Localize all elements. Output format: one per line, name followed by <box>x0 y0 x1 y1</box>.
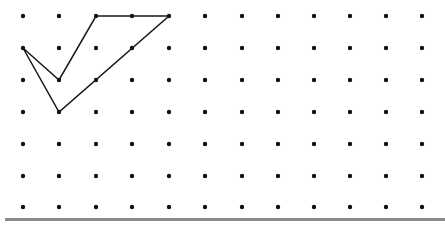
grid-dot <box>203 110 207 114</box>
grid-dot <box>21 78 25 82</box>
grid-dot <box>312 46 316 50</box>
grid-dot <box>240 110 244 114</box>
grid-dot <box>348 46 352 50</box>
dot-grid-figure <box>0 0 445 226</box>
grid-dot <box>130 110 134 114</box>
grid-dot <box>21 174 25 178</box>
grid-dot <box>384 110 388 114</box>
grid-dot <box>276 78 280 82</box>
grid-dot <box>420 78 424 82</box>
grid-dot <box>240 46 244 50</box>
grid-dot <box>203 14 207 18</box>
grid-dot <box>384 46 388 50</box>
grid-dot <box>203 142 207 146</box>
grid-dot <box>203 46 207 50</box>
grid-dot <box>276 14 280 18</box>
grid-dot <box>94 110 98 114</box>
drawn-polygon <box>23 16 169 112</box>
grid-dot <box>57 174 61 178</box>
grid-dot <box>167 110 171 114</box>
grid-dot <box>276 174 280 178</box>
grid-dot <box>384 78 388 82</box>
grid-dot <box>130 174 134 178</box>
grid-dot <box>348 205 352 209</box>
grid-dot <box>94 174 98 178</box>
grid-dot <box>167 174 171 178</box>
grid-dot <box>276 205 280 209</box>
grid-dot <box>312 110 316 114</box>
grid-dot <box>276 142 280 146</box>
grid-dot <box>384 205 388 209</box>
grid-dot <box>167 205 171 209</box>
grid-dot <box>21 205 25 209</box>
grid-dot <box>420 110 424 114</box>
grid-dot <box>384 174 388 178</box>
grid-dot <box>130 205 134 209</box>
grid-dot <box>167 78 171 82</box>
grid-dot <box>420 205 424 209</box>
grid-dot <box>384 142 388 146</box>
grid-dot <box>130 142 134 146</box>
grid-dot <box>94 46 98 50</box>
grid-dot <box>276 110 280 114</box>
grid-dot <box>348 14 352 18</box>
grid-dot <box>276 46 280 50</box>
grid-dot <box>94 205 98 209</box>
grid-dot <box>57 14 61 18</box>
grid-dot <box>130 78 134 82</box>
grid-dot <box>420 174 424 178</box>
grid-dot <box>420 142 424 146</box>
grid-dot <box>312 14 316 18</box>
grid-dot <box>312 78 316 82</box>
grid-dot <box>240 14 244 18</box>
bottom-rule <box>5 218 445 221</box>
dot-grid <box>21 14 424 209</box>
grid-dot <box>203 205 207 209</box>
grid-dot <box>240 142 244 146</box>
grid-dot <box>57 142 61 146</box>
grid-dot <box>348 142 352 146</box>
grid-dot <box>167 142 171 146</box>
grid-dot <box>240 205 244 209</box>
grid-dot <box>348 174 352 178</box>
grid-dot <box>94 142 98 146</box>
grid-dot <box>57 205 61 209</box>
grid-dot <box>240 78 244 82</box>
grid-dot <box>203 174 207 178</box>
grid-dot <box>167 46 171 50</box>
grid-dot <box>312 142 316 146</box>
grid-dot <box>420 14 424 18</box>
grid-dot <box>203 78 207 82</box>
grid-dot <box>312 205 316 209</box>
grid-dot <box>312 174 316 178</box>
grid-dot <box>384 14 388 18</box>
grid-dot <box>21 14 25 18</box>
grid-dot <box>420 46 424 50</box>
grid-dot <box>21 142 25 146</box>
grid-dot <box>348 110 352 114</box>
grid-dot <box>348 78 352 82</box>
grid-dot <box>21 110 25 114</box>
grid-dot <box>57 46 61 50</box>
grid-dot <box>240 174 244 178</box>
